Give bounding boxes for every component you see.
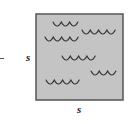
square-water-diagram [0, 0, 129, 124]
tick-mark [0, 58, 4, 59]
side-length-label-left: s [26, 52, 30, 63]
side-length-label-bottom: s [77, 104, 81, 115]
